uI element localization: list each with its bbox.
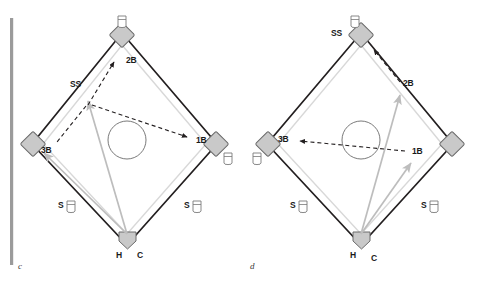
panel-c-label-s-right: S [184,200,189,210]
panel-d-label-1b: 1B [412,146,422,156]
panel-c-label-3b: 3B [41,145,51,155]
panel-d-label-h: H [350,250,356,260]
panel-d-label-c: C [371,253,377,263]
panel-c-bucket-1b [224,153,232,165]
panel-label-c: c [18,261,22,271]
panel-c-bucket-s-right [193,201,201,213]
figure-background [0,0,486,282]
panel-c-label-1b: 1B [196,135,206,145]
panel-d-label-ss: SS [331,28,342,38]
panel-c-bucket-s-left [67,201,75,213]
panel-d-label-3b: 3B [278,134,288,144]
baseball-diagrams-svg [0,0,486,282]
panel-c-bucket-2b [118,16,126,28]
panel-d-bucket-s-right [430,201,438,213]
left-margin-bar [10,18,13,265]
panel-d-label-2b: 2B [403,78,413,88]
panel-c-label-c: C [137,250,143,260]
panel-d-label-s-left: S [290,200,295,210]
figure-root: 2B SS 3B 1B H C S S SS 2B 3B 1B H C S S … [0,0,486,282]
panel-label-d: d [250,261,255,271]
panel-d-label-s-right: S [421,200,426,210]
panel-c-label-ss: SS [70,79,81,89]
panel-d-bucket-3b [253,153,261,165]
panel-c-label-h: H [116,250,122,260]
panel-d-bucket-s-left [299,201,307,213]
panel-c-label-2b: 2B [126,55,136,65]
panel-c-label-s-left: S [58,200,63,210]
panel-d-bucket-ss [351,16,359,28]
